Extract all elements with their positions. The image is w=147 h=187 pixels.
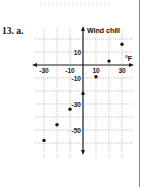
x-tick-label: -30	[39, 67, 49, 74]
data-point	[55, 123, 58, 126]
data-point	[120, 43, 123, 46]
axes	[32, 26, 134, 155]
data-point	[42, 139, 45, 142]
x-tick-label: 30	[118, 67, 126, 74]
data-point	[94, 75, 97, 78]
data-point	[81, 92, 84, 95]
y-tick-label: 10	[74, 49, 82, 56]
y-axis-down-arrow-icon	[81, 150, 85, 155]
y-tick-label: -10	[72, 75, 82, 82]
x-axis-label: °F	[125, 55, 133, 62]
wind-chill-scatter-chart: Wind chill °F -30-10103010-10-30-50	[0, 0, 147, 187]
y-axis-up-arrow-icon	[81, 26, 85, 31]
data-point	[68, 108, 71, 111]
y-tick-label: -30	[72, 101, 82, 108]
x-tick-label: -10	[65, 67, 75, 74]
data-point	[107, 59, 110, 62]
x-tick-label: 10	[92, 67, 100, 74]
x-axis-left-arrow-icon	[32, 63, 37, 67]
y-axis-label: Wind chill	[87, 27, 120, 34]
x-axis-right-arrow-icon	[129, 63, 134, 67]
y-tick-label: -50	[72, 127, 82, 134]
